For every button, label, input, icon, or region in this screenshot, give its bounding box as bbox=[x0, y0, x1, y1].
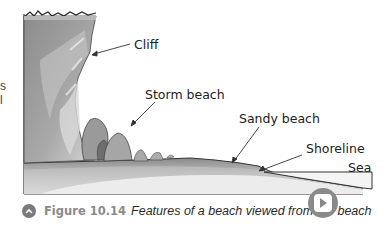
label-storm-beach: Storm beach bbox=[145, 87, 225, 102]
label-sea: Sea bbox=[348, 160, 371, 175]
chevron-up-icon[interactable] bbox=[22, 204, 36, 218]
play-button[interactable] bbox=[308, 188, 338, 218]
beach-diagram: Cliff Storm beach Sandy beach Shoreline … bbox=[0, 0, 392, 200]
play-icon bbox=[314, 194, 332, 212]
label-cliff: Cliff bbox=[134, 37, 158, 52]
label-shoreline: Shoreline bbox=[306, 141, 365, 156]
label-sandy-beach: Sandy beach bbox=[239, 111, 320, 126]
figure-number: Figure 10.14 bbox=[44, 204, 126, 218]
